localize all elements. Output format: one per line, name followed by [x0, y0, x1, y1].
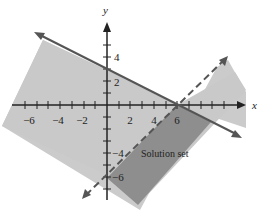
x-tick-label: 6 [174, 114, 180, 126]
y-tick-label: −4 [112, 147, 124, 159]
y-tick-label: 2 [114, 76, 120, 88]
y-axis-arrow-icon [103, 22, 111, 32]
x-axis-label: x [251, 99, 257, 111]
x-tick-label: −4 [52, 114, 64, 126]
y-tick-label: 4 [114, 51, 120, 63]
x-tick-label: 4 [151, 114, 157, 126]
y-axis-label: y [102, 4, 108, 16]
x-tick-label: −6 [23, 114, 35, 126]
graph: y x −6 −4 −2 2 4 6 4 2 −4 −6 Solution se… [0, 0, 263, 212]
x-tick-label: 2 [127, 114, 133, 126]
y-tick-label: −6 [112, 171, 124, 183]
x-tick-label: −2 [76, 114, 88, 126]
solution-set-label: Solution set [141, 148, 189, 159]
